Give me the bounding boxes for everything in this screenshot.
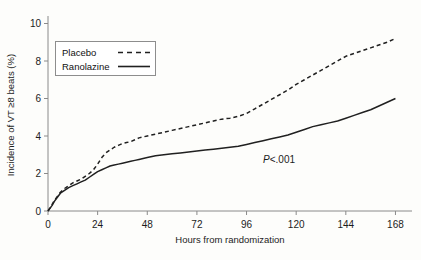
x-tick-label: 0 xyxy=(45,219,51,230)
legend: Placebo Ranolazine xyxy=(56,42,156,76)
y-axis-title: Incidence of VT ≥8 beats (%) xyxy=(5,54,16,176)
x-axis-title: Hours from randomization xyxy=(175,234,284,245)
x-axis-ticks xyxy=(48,211,395,215)
legend-label-ranolazine: Ranolazine xyxy=(62,61,110,72)
y-tick-label: 6 xyxy=(35,93,41,104)
x-tick-label: 144 xyxy=(337,219,354,230)
y-tick-label: 10 xyxy=(30,18,42,29)
y-tick-label: 8 xyxy=(35,56,41,67)
p-value-text: <.001 xyxy=(270,154,296,165)
y-tick-label: 2 xyxy=(35,168,41,179)
chart-svg: 0246810 024487296120144168 Incidence of … xyxy=(0,0,421,260)
x-tick-label: 48 xyxy=(142,219,154,230)
x-tick-label: 24 xyxy=(92,219,104,230)
series-line-ranolazine xyxy=(48,99,395,212)
y-axis-ticks xyxy=(44,24,48,212)
y-tick-label: 0 xyxy=(35,206,41,217)
y-tick-label: 4 xyxy=(35,131,41,142)
x-tick-label: 72 xyxy=(191,219,203,230)
figure-container: 0246810 024487296120144168 Incidence of … xyxy=(0,0,421,260)
p-value-annotation: P<.001 xyxy=(263,154,295,165)
y-axis-tick-labels: 0246810 xyxy=(30,18,42,217)
x-axis-tick-labels: 024487296120144168 xyxy=(45,219,404,230)
x-tick-label: 168 xyxy=(387,219,404,230)
x-tick-label: 120 xyxy=(288,219,305,230)
legend-label-placebo: Placebo xyxy=(62,47,96,58)
x-tick-label: 96 xyxy=(241,219,253,230)
